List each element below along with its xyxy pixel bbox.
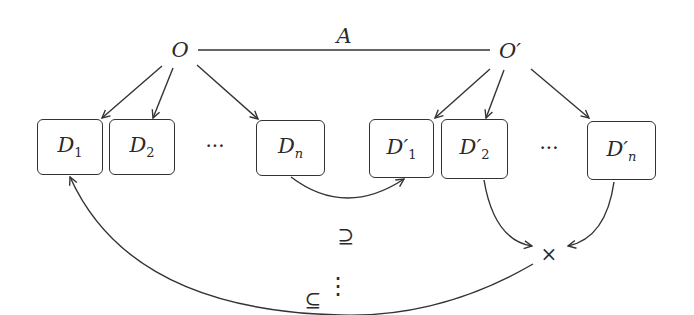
box-dn-base: D bbox=[278, 134, 295, 158]
box-dn-prime-sub: n bbox=[628, 149, 636, 164]
edge-label-a: A bbox=[336, 26, 351, 47]
box-d2-prime: D′2 bbox=[441, 119, 508, 179]
edge-o-d2 bbox=[153, 68, 173, 118]
edge-dnprime-times bbox=[568, 182, 614, 246]
box-dn: Dn bbox=[256, 120, 325, 176]
box-d1-base: D bbox=[57, 133, 74, 157]
box-d1-prime-sub: 1 bbox=[408, 147, 416, 162]
edge-o-dn bbox=[197, 65, 258, 119]
edge-dn-d1prime bbox=[291, 177, 404, 198]
ellipsis-right: ··· bbox=[539, 138, 558, 158]
box-d2: D2 bbox=[109, 119, 175, 175]
subseteq-label: ⊆ bbox=[305, 290, 322, 310]
vertical-ellipsis: ⋮ bbox=[326, 274, 350, 298]
box-dn-prime-base: D′ bbox=[607, 137, 629, 161]
box-d2-prime-base: D′ bbox=[460, 135, 482, 159]
box-d1: D1 bbox=[37, 119, 103, 175]
edge-oprime-dnprime bbox=[531, 69, 589, 118]
node-o-prime: O′ bbox=[499, 41, 521, 62]
box-d2-prime-sub: 2 bbox=[481, 148, 489, 163]
box-d2-base: D bbox=[129, 133, 146, 157]
box-d1-prime: D′1 bbox=[369, 119, 434, 178]
times-node: × bbox=[541, 244, 558, 264]
edge-d2prime-times bbox=[484, 180, 532, 246]
box-d1-sub: 1 bbox=[74, 146, 82, 161]
box-d2-sub: 2 bbox=[146, 146, 154, 161]
edge-oprime-d2prime bbox=[486, 70, 504, 118]
box-dn-prime: D′n bbox=[587, 121, 656, 180]
edge-times-d1 bbox=[70, 177, 533, 315]
box-d1-prime-base: D′ bbox=[387, 135, 409, 159]
supseteq-label: ⊇ bbox=[338, 226, 355, 246]
node-o: O bbox=[171, 40, 188, 61]
ellipsis-left: ··· bbox=[205, 136, 224, 156]
box-dn-sub: n bbox=[295, 147, 303, 162]
edge-oprime-d1prime bbox=[435, 69, 490, 118]
edge-o-d1 bbox=[102, 66, 162, 118]
